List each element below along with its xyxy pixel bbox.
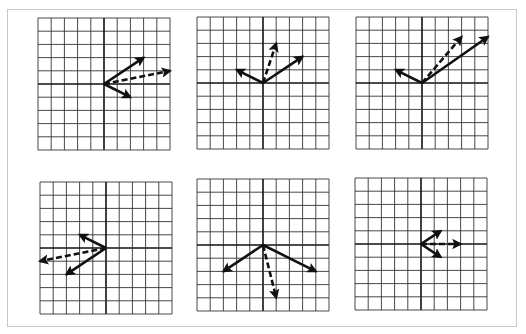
- vector-grid-6: [355, 178, 487, 310]
- vector-grid-2: [197, 17, 329, 149]
- coordinate-grid: [356, 17, 488, 149]
- vector-grid-3: [356, 17, 488, 149]
- coordinate-grid: [197, 179, 329, 311]
- coordinate-grid: [40, 182, 172, 314]
- component-vector-arrow: [421, 244, 441, 257]
- component-vector-arrow: [421, 231, 441, 244]
- coordinate-grid: [38, 18, 170, 150]
- coordinate-grid: [197, 17, 329, 149]
- coordinate-grid: [355, 178, 487, 310]
- vector-grid-4: [40, 182, 172, 314]
- vector-grid-1: [38, 18, 170, 150]
- vector-grid-5: [197, 179, 329, 311]
